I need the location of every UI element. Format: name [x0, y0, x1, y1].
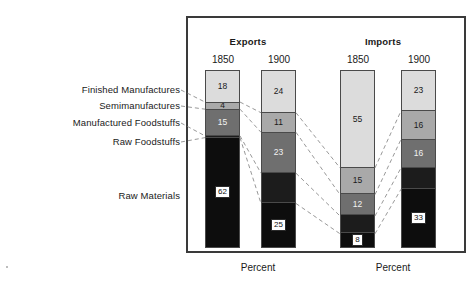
segment-value: 16	[414, 149, 423, 158]
year-label-exports-1900: 1900	[259, 54, 299, 65]
segment-exports-1850-finished-manufactures[interactable]: 18	[206, 71, 239, 103]
caption-percent-exports: Percent	[213, 262, 303, 273]
category-label-manufactured-foodstuffs: Manufactured Foodstuffs	[0, 117, 180, 128]
bar-imports-1850[interactable]: 5515128	[340, 70, 375, 248]
segment-value: 15	[218, 118, 227, 127]
segment-value: 24	[274, 87, 283, 96]
year-label-exports-1850: 1850	[203, 54, 243, 65]
bar-exports-1850[interactable]: 1841562	[205, 70, 240, 248]
segment-value: 11	[274, 118, 283, 127]
year-label-imports-1900: 1900	[399, 54, 439, 65]
segment-value: 23	[274, 148, 283, 157]
segment-value: 16	[414, 121, 423, 130]
segment-imports-1900-semimanufactures[interactable]: 16	[402, 111, 435, 139]
caption-percent-imports: Percent	[348, 262, 438, 273]
segment-exports-1900-manufactured-foodstuffs[interactable]: 23	[262, 133, 295, 173]
segment-value: 8	[352, 234, 362, 246]
segment-imports-1850-semimanufactures[interactable]: 15	[341, 168, 374, 194]
group-title-exports: Exports	[203, 36, 293, 47]
segment-imports-1850-manufactured-foodstuffs[interactable]: 12	[341, 194, 374, 215]
segment-value: 15	[353, 176, 362, 185]
segment-exports-1900-semimanufactures[interactable]: 11	[262, 113, 295, 132]
chart-stage: Exports Imports 1850 1900 1850 1900 Fini…	[0, 0, 475, 287]
group-title-imports: Imports	[338, 36, 428, 47]
segment-imports-1850-raw-foodstuffs[interactable]	[341, 215, 374, 233]
segment-imports-1850-raw-materials[interactable]: 8	[341, 233, 374, 247]
segment-value: 4	[220, 103, 225, 110]
segment-value: 33	[411, 212, 426, 224]
category-label-finished-manufactures: Finished Manufactures	[0, 84, 180, 95]
segment-imports-1900-raw-materials[interactable]: 33	[402, 189, 435, 247]
segment-imports-1900-finished-manufactures[interactable]: 23	[402, 71, 435, 111]
category-label-semimanufactures: Semimanufactures	[0, 100, 180, 111]
segment-value: 55	[353, 115, 362, 124]
segment-value: 62	[215, 186, 230, 198]
segment-value: 25	[271, 219, 286, 231]
category-label-raw-materials: Raw Materials	[0, 190, 180, 201]
segment-value: 18	[218, 82, 227, 91]
bar-imports-1900[interactable]: 23161633	[401, 70, 436, 248]
segment-exports-1900-finished-manufactures[interactable]: 24	[262, 71, 295, 113]
segment-value: 12	[353, 200, 362, 209]
year-label-imports-1850: 1850	[338, 54, 378, 65]
category-label-raw-foodstuffs: Raw Foodstuffs	[0, 136, 180, 147]
segment-exports-1850-manufactured-foodstuffs[interactable]: 15	[206, 110, 239, 136]
page-speck	[6, 266, 8, 268]
bar-exports-1900[interactable]: 24112325	[261, 70, 296, 248]
segment-exports-1900-raw-foodstuffs[interactable]	[262, 173, 295, 203]
segment-value: 23	[414, 86, 423, 95]
segment-imports-1850-finished-manufactures[interactable]: 55	[341, 71, 374, 168]
segment-imports-1900-raw-foodstuffs[interactable]	[402, 168, 435, 189]
segment-exports-1850-raw-materials[interactable]: 62	[206, 138, 239, 247]
segment-exports-1850-semimanufactures[interactable]: 4	[206, 103, 239, 110]
segment-exports-1900-raw-materials[interactable]: 25	[262, 203, 295, 247]
segment-imports-1900-manufactured-foodstuffs[interactable]: 16	[402, 140, 435, 168]
